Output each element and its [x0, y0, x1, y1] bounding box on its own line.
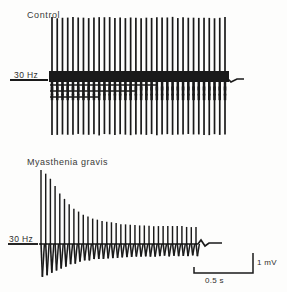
time-scale-label: 0.5 s: [205, 276, 224, 285]
voltage-scale-label: 1 mV: [257, 258, 277, 267]
emg-figure: Control 30 Hz Myasthenia gravis 30 Hz 1 …: [0, 0, 287, 292]
scale-bar: [0, 0, 287, 292]
